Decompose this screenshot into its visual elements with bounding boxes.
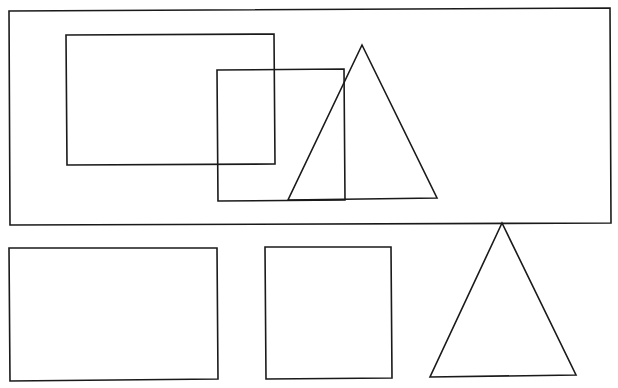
overlapping-triangle bbox=[288, 45, 437, 200]
shapes-diagram bbox=[0, 0, 618, 388]
overlapping-square-b bbox=[217, 69, 345, 201]
separate-shapes bbox=[9, 223, 576, 381]
separate-rectangle bbox=[9, 248, 218, 381]
separate-square bbox=[265, 247, 392, 379]
composite-figure bbox=[9, 8, 611, 225]
frame-rectangle bbox=[9, 8, 611, 225]
separate-triangle bbox=[430, 223, 576, 377]
overlapping-rectangle-a bbox=[66, 34, 275, 165]
